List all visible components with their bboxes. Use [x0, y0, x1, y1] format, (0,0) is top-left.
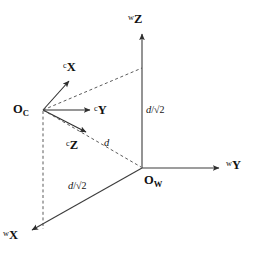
construction-lines-group	[43, 68, 142, 229]
camera-axes-group	[43, 81, 90, 132]
world-origin-label: OW	[144, 173, 163, 189]
world-y-axis-label: wY	[226, 158, 241, 172]
baseline-measure-label: d/√2	[68, 180, 87, 191]
coordinate-frame-diagram: wZ wY wX OW cX cY cZ OC	[0, 0, 257, 254]
dashed-line-distance-d	[43, 110, 141, 167]
height-measure-label: d/√2	[146, 104, 165, 115]
distance-measure-label: d	[104, 137, 110, 148]
diagram-canvas: wZ wY wX OW cX cY cZ OC	[0, 0, 257, 254]
world-axes-group	[32, 34, 219, 230]
camera-y-axis-label: cY	[94, 103, 107, 117]
camera-origin-label: OC	[13, 102, 29, 118]
world-x-axis-line	[32, 168, 142, 230]
camera-x-axis-label: cX	[63, 60, 76, 74]
camera-x-axis-line	[43, 81, 69, 110]
world-z-axis-label: wZ	[128, 12, 142, 26]
camera-z-axis-label: cZ	[66, 138, 78, 152]
world-x-axis-label: wX	[3, 228, 18, 242]
dashed-line-to-z-axis	[43, 68, 142, 110]
